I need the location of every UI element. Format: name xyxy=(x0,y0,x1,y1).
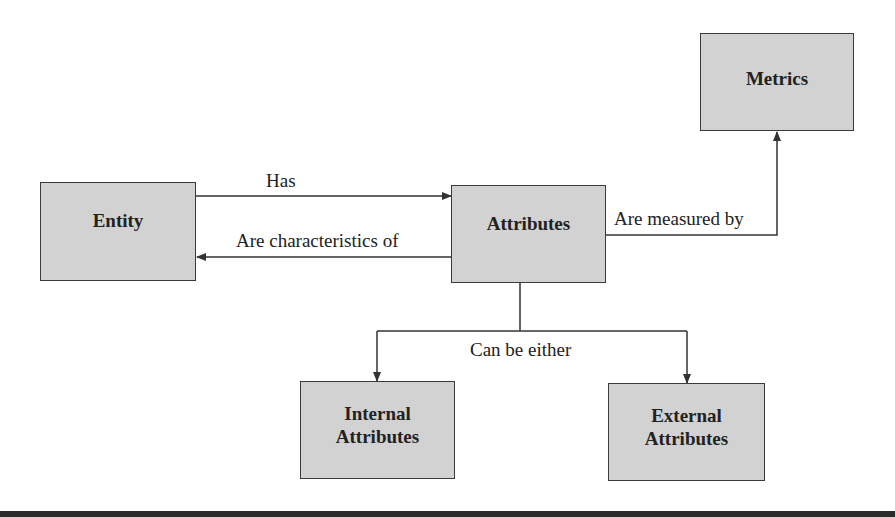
entity-node: Entity xyxy=(40,182,196,281)
internal-label-line1: Internal xyxy=(336,402,419,425)
are-measured-by-label: Are measured by xyxy=(614,208,744,230)
attributes-node: Attributes xyxy=(451,185,606,283)
attributes-label: Attributes xyxy=(487,212,570,235)
internal-attributes-label: Internal Attributes xyxy=(336,402,419,448)
entity-label: Entity xyxy=(93,209,144,232)
has-label: Has xyxy=(266,170,296,192)
internal-label-line2: Attributes xyxy=(336,425,419,448)
external-attributes-node: External Attributes xyxy=(608,383,765,481)
external-label-line1: External xyxy=(645,404,728,427)
external-label-line2: Attributes xyxy=(645,427,728,450)
metrics-label: Metrics xyxy=(746,67,808,90)
are-characteristics-of-label: Are characteristics of xyxy=(236,230,398,252)
external-attributes-label: External Attributes xyxy=(645,404,728,450)
internal-attributes-node: Internal Attributes xyxy=(300,381,455,479)
metrics-node: Metrics xyxy=(700,33,854,131)
bottom-rule xyxy=(0,511,895,517)
can-be-either-label: Can be either xyxy=(470,339,571,361)
